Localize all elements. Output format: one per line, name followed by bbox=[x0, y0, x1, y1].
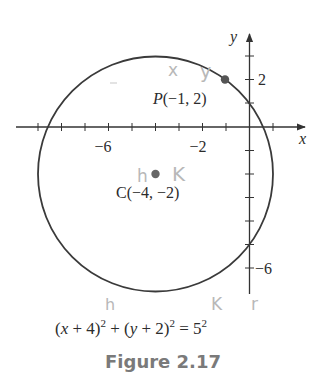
point-C-name: C bbox=[116, 184, 127, 201]
point-C-marker bbox=[151, 170, 159, 178]
figure-caption: Figure 2.17 bbox=[105, 351, 221, 372]
note-k-equation: K bbox=[211, 294, 223, 314]
note-h-equation: h bbox=[105, 295, 115, 314]
x-axis-label: x bbox=[298, 130, 306, 147]
point-P-coords: (−1, 2) bbox=[163, 90, 207, 108]
eq-y-var: y bbox=[128, 319, 138, 338]
x-tick-label-neg2: −2 bbox=[189, 138, 206, 155]
eq-equals-5: = 5 bbox=[175, 319, 202, 338]
note-h-center: h bbox=[137, 166, 148, 186]
y-axis-label: y bbox=[228, 28, 238, 46]
eq-plus-2: + 2) bbox=[137, 319, 169, 338]
eq-plus-4: + 4) bbox=[68, 319, 100, 338]
y-tick-label-2: 2 bbox=[258, 71, 266, 88]
note-r-equation: r bbox=[251, 294, 258, 314]
circle-figure: x y −6 −2 2 −6 P(−1, 2) C(−4, −2) x y h … bbox=[0, 0, 332, 383]
note-x: x bbox=[168, 60, 178, 80]
point-C-coords: (−4, −2) bbox=[127, 184, 180, 202]
point-C-label: C(−4, −2) bbox=[116, 184, 179, 202]
eq-plus-open: + ( bbox=[106, 319, 130, 338]
point-P-marker bbox=[221, 75, 229, 83]
eq-exponent-3: 2 bbox=[202, 317, 208, 329]
note-k-center: K bbox=[172, 162, 186, 186]
circle-equation: (x + 4)2 + (y + 2)2 = 52 bbox=[55, 317, 207, 338]
point-P-label: P(−1, 2) bbox=[152, 90, 206, 108]
y-tick-label-neg6: −6 bbox=[255, 260, 272, 277]
note-y: y bbox=[200, 60, 211, 82]
point-P-name: P bbox=[152, 90, 163, 107]
x-tick-label-neg6: −6 bbox=[94, 138, 111, 155]
